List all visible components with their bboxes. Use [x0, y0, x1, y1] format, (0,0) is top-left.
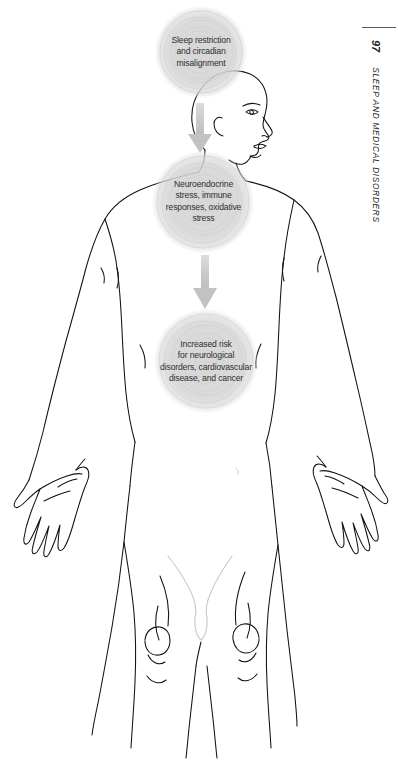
right-knee-crease: [238, 674, 257, 681]
right-hand-thumb: [320, 471, 362, 486]
left-leg-outer: [92, 486, 130, 735]
right-patella-lower: [239, 653, 256, 662]
left-leg-inner: [186, 666, 196, 758]
torso-right-side: [266, 200, 294, 443]
crotch-line: [196, 642, 201, 666]
eye-pupil: [250, 110, 254, 114]
torso-left-side: [105, 219, 135, 442]
page-canvas: Sleep restriction and circadian misalign…: [0, 0, 398, 760]
genital-outline: [195, 618, 207, 640]
running-head-title: SLEEP AND MEDICAL DISORDERS: [371, 55, 381, 235]
mouth-line: [254, 145, 266, 149]
flow-node-neuroendocrine-stress: Neuroendocrine stress, immune responses,…: [152, 150, 255, 253]
right-patella-upper: [247, 603, 250, 638]
nostril-line: [262, 136, 267, 137]
left-knee-contour: [160, 576, 169, 626]
left-palm-crease-1: [44, 491, 70, 501]
hip-left: [130, 442, 135, 486]
right-palm-crease-2: [325, 476, 344, 484]
right-leg-mid-line: [266, 545, 278, 748]
right-palm-crease-1: [332, 488, 358, 498]
right-patella-outline: [233, 624, 259, 653]
navel-mark: [236, 468, 238, 474]
arrow-node2-to-node3: [193, 255, 217, 309]
left-palm-crease-2: [58, 479, 77, 487]
running-head: 97 SLEEP AND MEDICAL DISORDERS: [358, 0, 398, 300]
right-armpit-mark: [283, 258, 285, 281]
left-patella-lower: [148, 655, 165, 664]
chest-midline: [140, 345, 145, 368]
right-leg-inner: [207, 666, 217, 758]
right-elbow-mark: [318, 256, 321, 272]
right-knee-contour: [235, 572, 245, 625]
flow-node-2-label: Neuroendocrine stress, immune responses,…: [153, 179, 255, 225]
left-patella-outline: [145, 627, 170, 655]
left-elbow-mark: [101, 268, 104, 283]
hip-right: [266, 443, 272, 487]
flow-node-1-label: Sleep restriction and circadian misalign…: [156, 35, 246, 69]
groin-crease-right: [206, 556, 232, 618]
ear-outline: [214, 117, 223, 136]
left-wrist-line: [76, 459, 85, 470]
left-armpit-mark: [117, 268, 119, 288]
right-hand-outline: [313, 464, 388, 554]
flow-node-3-label: Increased risk for neurological disorder…: [153, 339, 259, 385]
left-knee-crease: [147, 676, 166, 683]
flow-node-increased-risk: Increased risk for neurological disorder…: [153, 309, 259, 414]
left-hand-outline: [14, 467, 89, 557]
right-wrist-line: [317, 456, 326, 467]
left-leg-mid-line: [124, 542, 136, 748]
groin-crease-left: [168, 556, 196, 618]
left-patella-upper: [156, 606, 159, 640]
eyebrow-line: [243, 104, 260, 106]
left-hand-thumb: [40, 474, 82, 489]
right-shoulder-arm: [246, 181, 375, 476]
right-leg-outer: [272, 487, 297, 726]
flow-node-sleep-restriction: Sleep restriction and circadian misalign…: [155, 0, 247, 108]
arrow-node1-to-node2: [188, 103, 212, 153]
